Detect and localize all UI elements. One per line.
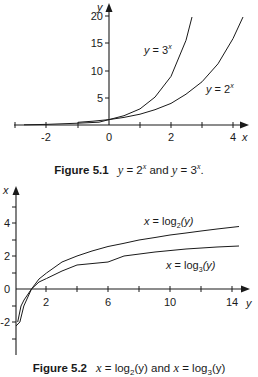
curve-label-3x: y = 3x: [143, 43, 172, 56]
vertical-tick-label: 4: [4, 217, 10, 229]
vertical-axis-label: x: [2, 184, 9, 196]
x-axis-arrow-icon: [240, 122, 249, 129]
y-tick-label: 5: [97, 92, 103, 104]
vertical-ticks: [12, 207, 16, 339]
figure-5-2-plot: 2 6 10 14 4 2 0 -2 y x x = log2(y) x = l…: [0, 185, 258, 369]
vertical-tick-label: -2: [0, 316, 10, 328]
curve-log3: [18, 246, 239, 322]
horizontal-tick-label: 14: [226, 296, 238, 308]
y-tick-label: 15: [91, 37, 103, 49]
horizontal-tick-label: 10: [164, 296, 176, 308]
y-ticks: [105, 16, 109, 98]
curve-label-log3: x = log3(y): [165, 259, 216, 273]
figure-number: Figure 5.2: [33, 362, 87, 374]
figure-5-2-caption: Figure 5.2x = log2(y) and x = log3(y): [0, 361, 258, 377]
curve-label-2x: y = 2x: [205, 82, 234, 95]
vertical-tick-label: 0: [4, 283, 10, 295]
x-tick-label: 4: [230, 131, 236, 143]
y-tick-label: 10: [91, 65, 103, 77]
vertical-tick-label: 2: [4, 250, 10, 262]
x-tick-label: 0: [106, 131, 112, 143]
horizontal-tick-label: 6: [105, 296, 111, 308]
curve-label-log2: x = log2(y): [143, 215, 194, 229]
curve-log2: [16, 227, 239, 327]
x-axis-label: x: [241, 131, 248, 143]
horizontal-tick-label: 2: [43, 296, 49, 308]
y-axis-arrow-icon: [106, 3, 113, 12]
horizontal-axis-arrow-icon: [241, 286, 250, 293]
x-tick-label: 2: [168, 131, 174, 143]
horizontal-axis-label: y: [245, 297, 253, 309]
vertical-axis-arrow-icon: [13, 186, 20, 195]
x-tick-label: -2: [41, 131, 51, 143]
figure-5-1-caption: Figure 5.1y = 2x and y = 3x.: [0, 160, 258, 178]
figure-5-1-plot: -2 0 2 4 5 10 15 20 x y y = 3x y = 2x: [0, 0, 258, 185]
figure-5-1: -2 0 2 4 5 10 15 20 x y y = 3x y = 2x Fi…: [0, 0, 258, 185]
figure-5-2: 2 6 10 14 4 2 0 -2 y x x = log2(y) x = l…: [0, 185, 258, 369]
figure-number: Figure 5.1: [54, 164, 108, 176]
